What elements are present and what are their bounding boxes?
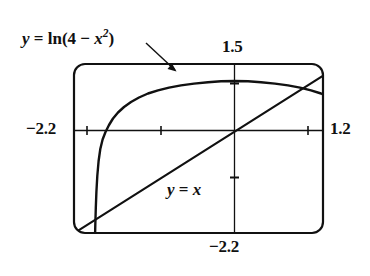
line-equation-label: y = x: [167, 181, 201, 198]
graph-figure: y = ln(4 − x2) y = x 1.5 −2.2 1.2 −2.2: [0, 0, 370, 276]
curve-eq-var: x: [94, 29, 103, 48]
curve-eq-minus: −: [80, 29, 90, 48]
line-eq-var: x: [193, 180, 202, 199]
window-xmin-label: −2.2: [26, 120, 56, 137]
curve-equation-label: y = ln(4 − x2): [22, 30, 114, 47]
line-eq-y: y: [167, 180, 175, 199]
curve-eq-func: ln(4: [48, 29, 76, 48]
window-ymin-label: −2.2: [209, 238, 239, 255]
window-xmax-label: 1.2: [330, 120, 351, 137]
curve-eq-y: y: [22, 29, 30, 48]
curve-eq-close: ): [109, 29, 115, 48]
viewing-window-frame: [74, 64, 323, 233]
window-ymax-label: 1.5: [222, 38, 243, 55]
line-eq-equals: =: [179, 180, 189, 199]
curve-eq-equals: =: [34, 29, 44, 48]
